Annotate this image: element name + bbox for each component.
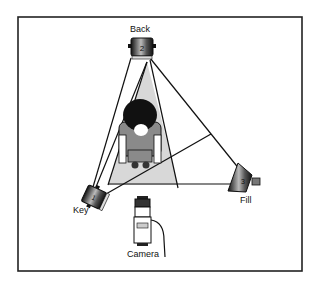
key-light-label: Key: [73, 205, 89, 215]
back-light: 2: [128, 38, 156, 59]
fill-light-number: 3: [241, 178, 245, 185]
subject: [119, 99, 161, 169]
back-light-number: 2: [140, 44, 145, 53]
back-light-label: Back: [130, 24, 150, 34]
camera-label: Camera: [127, 249, 159, 259]
fill-light-label: Fill: [240, 195, 252, 205]
